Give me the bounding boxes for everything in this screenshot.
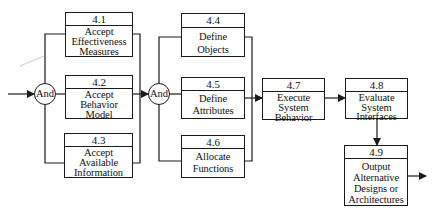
edge-and2-4.6 [159, 105, 181, 161]
function-label-line: Output [345, 161, 407, 172]
function-box-4-5: 4.5 Define Attributes [181, 77, 245, 119]
function-label-line: Information [65, 168, 132, 178]
function-label-line: Attributes [182, 105, 244, 117]
merge-bus-1 [133, 34, 140, 163]
and-gate-2: And [148, 83, 170, 105]
function-label-line: Functions [182, 163, 244, 175]
function-label-line: Define [182, 30, 244, 43]
function-number: 4.9 [345, 146, 407, 159]
function-label-line: Behavior [263, 113, 324, 123]
edge-and1-4.1 [45, 34, 65, 83]
edge-and2-4.4 [159, 37, 181, 83]
function-number: 4.8 [346, 79, 407, 92]
function-label-line: Interfaces [346, 112, 407, 122]
function-box-4-3: 4.3 Accept Available Information [64, 133, 133, 178]
function-number: 4.5 [182, 78, 244, 91]
function-label-line: Model [66, 110, 132, 120]
and-gate-1: And [34, 83, 56, 105]
function-number: 4.4 [182, 14, 244, 28]
function-label-line: Architectures [345, 194, 407, 205]
function-box-4-4: 4.4 Define Objects [181, 13, 245, 57]
function-label-line: Objects [182, 43, 244, 56]
function-label-line: Define [182, 93, 244, 105]
function-box-4-1: 4.1 Accept Effectiveness Measures [65, 12, 133, 57]
scan-artifact [20, 56, 44, 66]
function-number: 4.1 [66, 13, 132, 26]
function-box-4-6: 4.6 Allocate Functions [181, 135, 245, 178]
function-number: 4.2 [66, 76, 132, 89]
edge-and1-4.3 [45, 105, 64, 163]
function-box-4-2: 4.2 Accept Behavior Model [65, 75, 133, 119]
function-label-line: Alternative [345, 172, 407, 183]
function-box-4-8: 4.8 Evaluate System Interfaces [345, 78, 408, 119]
function-label-line: Designs or [345, 183, 407, 194]
function-number: 4.7 [263, 79, 324, 92]
function-box-4-7: 4.7 Execute System Behavior [262, 78, 325, 120]
merge-bus-2 [245, 37, 252, 161]
function-number: 4.6 [182, 136, 244, 149]
function-label-line: Allocate [182, 151, 244, 163]
function-label-line: Measures [66, 47, 132, 57]
function-number: 4.3 [65, 134, 132, 147]
function-box-4-9: 4.9 Output Alternative Designs or Archit… [344, 145, 408, 206]
